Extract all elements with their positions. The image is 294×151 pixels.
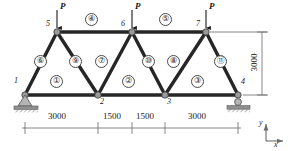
- roller-support-node-4: [227, 99, 250, 113]
- member-label-8: ⑧: [167, 55, 180, 68]
- axis-label-y: y: [259, 119, 263, 127]
- load-label-node-7: P: [209, 2, 215, 11]
- member-label-3: ③: [191, 75, 204, 88]
- axis-label-x: x: [274, 141, 278, 149]
- member-label-7: ⑦: [95, 55, 108, 68]
- dimension-label-height: 3000: [250, 50, 259, 76]
- axis-indicator: [266, 124, 283, 141]
- dimension-label-span-4: 3000: [188, 112, 206, 121]
- member-label-1: ①: [50, 75, 63, 88]
- node-label-1: 1: [14, 77, 18, 85]
- horizontal-dimension-line: [22, 122, 241, 134]
- dimension-label-span-3: 1500: [136, 112, 154, 121]
- load-label-node-5: P: [60, 2, 66, 11]
- joint-6: [129, 29, 135, 35]
- truss-graphics: [0, 0, 294, 151]
- member-label-11: ⑪: [214, 55, 227, 68]
- member-label-5: ⑤: [159, 13, 172, 26]
- node-label-5: 5: [46, 20, 50, 28]
- joint-7: [203, 29, 209, 35]
- load-label-node-6: P: [135, 2, 141, 11]
- node-label-3: 3: [167, 98, 171, 106]
- pin-support-node-1: [14, 95, 38, 112]
- node-label-2: 2: [100, 98, 104, 106]
- member-label-4: ④: [85, 13, 98, 26]
- member-label-9: ⑨: [69, 55, 82, 68]
- load-arrows: [57, 10, 206, 28]
- dimension-label-span-2: 1500: [103, 112, 121, 121]
- joint-5: [54, 29, 60, 35]
- truss-diagram: 1 2 3 4 5 6 7 P P P ① ② ③ ④ ⑤ ⑥ ⑦ ⑧ ⑨ ⑩ …: [0, 0, 294, 151]
- joint-4: [235, 92, 241, 98]
- member-label-2: ②: [122, 75, 135, 88]
- node-label-6: 6: [121, 20, 125, 28]
- dimension-label-span-1: 3000: [48, 112, 66, 121]
- node-label-7: 7: [196, 20, 200, 28]
- member-label-10: ⑩: [142, 55, 155, 68]
- member-label-6: ⑥: [34, 55, 47, 68]
- node-label-4: 4: [241, 78, 245, 86]
